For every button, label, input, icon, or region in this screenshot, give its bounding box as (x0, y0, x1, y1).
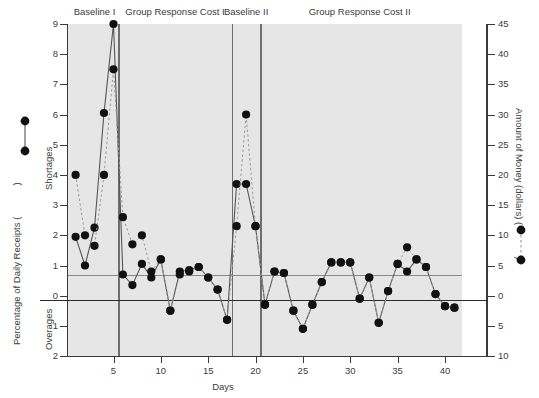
data-point (422, 263, 430, 271)
data-point (204, 273, 212, 281)
left-region-label-shortages: Shortages (44, 147, 54, 190)
x-axis-title: Days (193, 381, 253, 392)
data-point (441, 302, 449, 310)
data-point (431, 290, 439, 298)
data-series-layer (0, 0, 539, 398)
data-point (128, 281, 136, 289)
data-point (318, 278, 326, 286)
data-point (365, 273, 373, 281)
data-point (138, 260, 146, 268)
data-point (214, 286, 222, 294)
data-point (403, 243, 411, 251)
data-point (90, 242, 98, 250)
data-point (299, 325, 307, 333)
data-point (450, 304, 458, 312)
data-point (251, 222, 259, 230)
data-point (195, 263, 203, 271)
data-point (138, 231, 146, 239)
data-point (289, 307, 297, 315)
legend-marker-money (513, 222, 529, 268)
series-line (76, 69, 455, 329)
left-axis-title-paren: ) (11, 182, 22, 185)
shortages-text: Shortages (43, 147, 54, 190)
data-point (261, 301, 269, 309)
chart-figure: 987654321012 454035302520151050510 51015… (0, 0, 539, 398)
data-point (412, 255, 420, 263)
data-point (308, 301, 316, 309)
left-axis-title-text: Percentage of Daily Receipts ( (11, 217, 22, 345)
data-point (119, 213, 127, 221)
data-point (327, 258, 335, 266)
data-point (100, 171, 108, 179)
data-point (280, 269, 288, 277)
data-point (128, 240, 136, 248)
data-point (337, 258, 345, 266)
data-point (346, 258, 354, 266)
legend-marker-percentage (17, 113, 33, 159)
data-point (100, 109, 108, 117)
data-point (270, 267, 278, 275)
left-axis-title: Percentage of Daily Receipts ( ) (12, 182, 22, 345)
series-1-solid (72, 20, 459, 333)
series-2-dashed (72, 65, 459, 333)
right-axis-title-text: Amount of Money (dollars) ( (514, 108, 525, 225)
data-point (356, 295, 364, 303)
data-point (185, 267, 193, 275)
data-point (233, 222, 241, 230)
data-point (72, 233, 80, 241)
data-point (394, 260, 402, 268)
data-point (375, 319, 383, 327)
data-point (242, 180, 250, 188)
data-point (403, 267, 411, 275)
data-point (81, 261, 89, 269)
left-region-label-overages: Overages (44, 309, 54, 350)
data-point (384, 287, 392, 295)
data-point (223, 316, 231, 324)
data-point (81, 231, 89, 239)
x-axis-title-text: Days (212, 381, 234, 392)
data-point (72, 171, 80, 179)
data-point (109, 65, 117, 73)
data-point (119, 270, 127, 278)
data-point (109, 20, 117, 28)
data-point (176, 270, 184, 278)
data-point (157, 255, 165, 263)
overages-text: Overages (43, 309, 54, 350)
data-point (242, 110, 250, 118)
data-point (233, 180, 241, 188)
data-point (147, 267, 155, 275)
data-point (166, 307, 174, 315)
